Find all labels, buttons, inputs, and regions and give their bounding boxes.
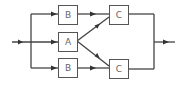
block-a: A <box>59 33 78 52</box>
block-diagram: B A B C C <box>0 0 186 85</box>
block-c-bottom-label: C <box>116 64 122 74</box>
block-c-top: C <box>110 6 129 25</box>
arrow-a-to-c-bottom-icon <box>95 53 100 59</box>
input-arrow-icon <box>18 40 23 45</box>
wire-a-to-c-top <box>77 17 109 41</box>
wire-a-to-c-bottom <box>77 41 109 66</box>
output-arrow-icon <box>163 40 169 45</box>
arrow-into-a-icon <box>51 40 57 45</box>
block-b-bottom: B <box>59 59 78 78</box>
block-c-bottom: C <box>110 60 129 79</box>
arrow-b-top-to-c-top-icon <box>90 12 96 17</box>
arrow-b-bottom-to-c-bottom-icon <box>90 66 96 71</box>
block-c-top-label: C <box>116 10 122 20</box>
block-b-top: B <box>59 6 78 25</box>
block-b-top-label: B <box>65 10 71 20</box>
arrow-into-b-bottom-icon <box>51 66 57 71</box>
arrow-into-b-top-icon <box>51 12 57 17</box>
block-b-bottom-label: B <box>65 63 71 73</box>
block-a-label: A <box>65 37 72 47</box>
